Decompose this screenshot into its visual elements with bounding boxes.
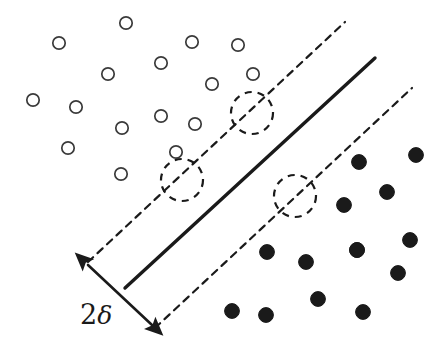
data-point-open <box>206 78 218 90</box>
data-point-open <box>189 118 201 130</box>
data-point-open <box>53 37 65 49</box>
data-point-filled <box>409 148 424 163</box>
data-point-open <box>27 94 39 106</box>
margin-label-delta-symbol: δ <box>97 301 112 330</box>
support-vector-ring <box>231 92 273 134</box>
data-point-filled <box>380 185 395 200</box>
margin-width-label: 2δ <box>80 299 112 330</box>
data-point-open <box>70 101 82 113</box>
margin-boundary-upper <box>88 22 345 262</box>
support-vector-ring <box>161 159 203 201</box>
data-point-filled <box>356 305 371 320</box>
data-point-open <box>116 122 128 134</box>
data-point-filled <box>391 266 406 281</box>
data-point-open <box>115 168 127 180</box>
data-point-filled <box>225 304 240 319</box>
data-point-open <box>232 39 244 51</box>
data-point-filled <box>403 233 418 248</box>
svm-diagram-canvas: 2δ <box>0 0 445 347</box>
data-point-filled <box>311 292 326 307</box>
data-point-open <box>62 142 74 154</box>
data-point-open <box>155 57 167 69</box>
data-point-filled <box>350 243 365 258</box>
data-point-open <box>170 146 182 158</box>
data-point-filled <box>352 155 367 170</box>
data-point-filled <box>299 255 314 270</box>
data-point-filled <box>337 198 352 213</box>
data-point-open <box>102 68 114 80</box>
data-point-filled <box>259 308 274 323</box>
data-point-open <box>155 110 167 122</box>
data-point-open <box>186 36 198 48</box>
svm-margin-figure: 2δ <box>0 0 445 347</box>
margin-label-number: 2 <box>80 299 97 330</box>
data-point-open <box>120 17 132 29</box>
data-point-open <box>247 68 259 80</box>
data-point-filled <box>260 245 275 260</box>
class-open-points-group <box>27 17 259 180</box>
